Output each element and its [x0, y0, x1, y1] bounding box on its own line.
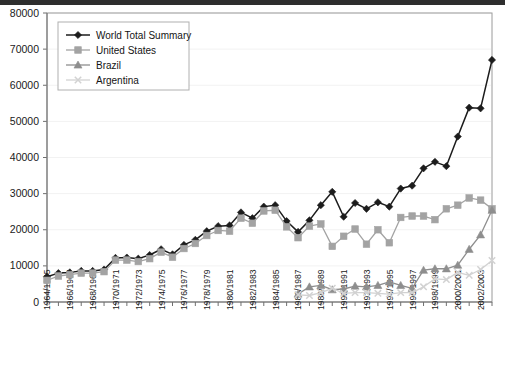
marker-square — [375, 226, 382, 233]
series-path — [47, 198, 492, 280]
legend-label: Argentina — [96, 75, 139, 86]
marker-square — [78, 270, 85, 277]
marker-square — [158, 249, 165, 256]
x-tick-label: 1994/1995 — [385, 269, 395, 310]
marker-diamond — [466, 104, 473, 111]
marker-square — [409, 213, 416, 220]
marker-square — [89, 270, 96, 277]
marker-square — [283, 224, 290, 231]
marker-square — [215, 227, 222, 234]
x-tick-label: 1972/1973 — [134, 269, 144, 310]
marker-diamond — [454, 133, 461, 140]
marker-diamond — [363, 205, 370, 212]
chart-canvas: 0100002000030000400005000060000700008000… — [0, 0, 505, 372]
marker-square — [352, 226, 359, 233]
legend-label: United States — [96, 45, 156, 56]
marker-cross — [420, 284, 426, 290]
y-tick-label: 50000 — [10, 115, 39, 127]
x-tick-label: 1980/1981 — [225, 269, 235, 310]
marker-square — [55, 273, 62, 280]
marker-square — [203, 232, 210, 239]
line-chart: 0100002000030000400005000060000700008000… — [0, 0, 505, 372]
y-tick-label: 10000 — [10, 259, 39, 271]
marker-square — [67, 271, 74, 278]
x-tick-label: 1998/1999 — [430, 269, 440, 310]
marker-square — [443, 205, 450, 212]
marker-square — [432, 216, 439, 223]
y-tick-label: 30000 — [10, 187, 39, 199]
x-tick-label: 1976/1977 — [179, 269, 189, 310]
marker-diamond — [477, 105, 484, 112]
chart-legend: World Total SummaryUnited StatesBrazilAr… — [58, 22, 191, 90]
marker-square — [295, 234, 302, 241]
x-tick-label: 1974/1975 — [157, 269, 167, 310]
marker-square — [318, 221, 325, 228]
x-tick-label: 1986/1987 — [293, 269, 303, 310]
marker-square — [454, 202, 461, 209]
marker-square — [420, 213, 427, 220]
y-tick-label: 70000 — [10, 43, 39, 55]
marker-square — [260, 208, 267, 215]
marker-square — [135, 258, 142, 265]
marker-square — [181, 245, 188, 252]
marker-triangle — [477, 231, 485, 238]
marker-square — [477, 197, 484, 204]
marker-square — [329, 243, 336, 250]
marker-square — [112, 257, 119, 264]
marker-square — [75, 47, 82, 54]
y-tick-label: 60000 — [10, 79, 39, 91]
marker-square — [192, 240, 199, 247]
marker-square — [226, 228, 233, 235]
marker-diamond — [374, 199, 381, 206]
y-tick-label: 40000 — [10, 151, 39, 163]
marker-square — [238, 215, 245, 222]
marker-square — [466, 195, 473, 202]
marker-square — [249, 220, 256, 227]
legend-label: World Total Summary — [96, 30, 191, 41]
marker-diamond — [488, 56, 495, 63]
marker-square — [386, 239, 393, 246]
x-tick-label: 1978/1979 — [202, 269, 212, 310]
marker-square — [306, 223, 313, 230]
legend-label: Brazil — [96, 60, 121, 71]
marker-square — [397, 214, 404, 221]
x-tick-label: 1982/1983 — [248, 269, 258, 310]
marker-diamond — [386, 203, 393, 210]
marker-square — [101, 268, 108, 275]
x-tick-label: 1970/1971 — [111, 269, 121, 310]
marker-square — [272, 207, 279, 214]
marker-square — [124, 257, 131, 264]
marker-square — [363, 241, 370, 248]
x-tick-label: 1984/1985 — [271, 269, 281, 310]
marker-square — [44, 277, 51, 284]
marker-square — [169, 254, 176, 261]
marker-diamond — [443, 163, 450, 170]
y-tick-label: 80000 — [10, 7, 39, 19]
marker-diamond — [431, 158, 438, 165]
y-tick-label: 0 — [33, 296, 39, 308]
marker-diamond — [397, 185, 404, 192]
y-tick-label: 20000 — [10, 223, 39, 235]
x-tick-label: 2002/2003 — [476, 269, 486, 310]
marker-square — [340, 233, 347, 240]
marker-square — [146, 255, 153, 262]
